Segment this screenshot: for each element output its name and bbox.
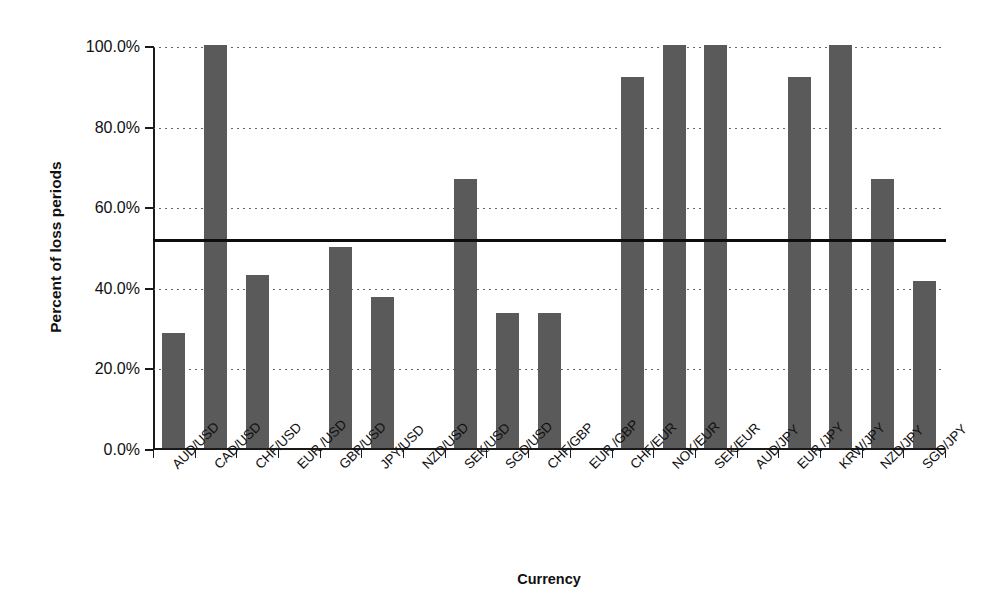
bar [871, 179, 894, 448]
bar [704, 45, 727, 448]
bar [162, 333, 185, 448]
x-tick-mark [153, 450, 154, 458]
bar [663, 45, 686, 448]
y-tick-mark [145, 127, 154, 129]
gridline-80 [153, 128, 945, 129]
x-axis-title: Currency [153, 571, 945, 587]
gridline-100 [153, 47, 945, 48]
y-tick-label: 80.0% [0, 120, 140, 136]
reference-line [153, 239, 946, 242]
y-tick-mark [145, 46, 154, 48]
bar [621, 77, 644, 448]
y-tick-mark [145, 288, 154, 290]
plot-area [153, 47, 945, 450]
y-axis-title: Percent of loss periods [47, 107, 65, 387]
y-tick-label: 20.0% [0, 361, 140, 377]
y-tick-mark [145, 368, 154, 370]
bar [788, 77, 811, 448]
y-tick-mark [145, 207, 154, 209]
y-tick-label: 100.0% [0, 39, 140, 55]
bar-chart: Percent of loss periods 0.0%20.0%40.0%60… [0, 0, 985, 608]
bar [829, 45, 852, 448]
bar [204, 45, 227, 448]
y-tick-label: 40.0% [0, 281, 140, 297]
y-axis-line [153, 47, 155, 450]
bar [454, 179, 477, 448]
gridline-60 [153, 208, 945, 209]
y-tick-label: 60.0% [0, 200, 140, 216]
y-tick-label: 0.0% [0, 442, 140, 458]
gridline-40 [153, 289, 945, 290]
